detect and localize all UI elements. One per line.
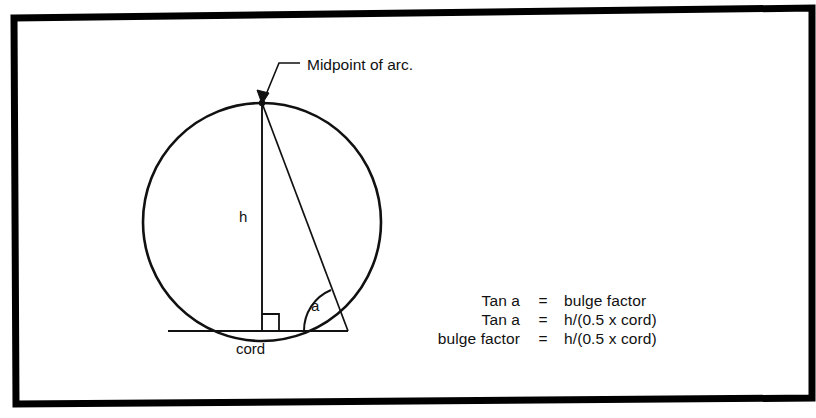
chord-label: cord xyxy=(236,340,265,357)
equation-rhs: h/(0.5 x cord) xyxy=(554,329,704,348)
equation-block: Tan a = bulge factor Tan a = h/(0.5 x co… xyxy=(404,291,704,348)
hypotenuse-line xyxy=(262,103,348,331)
equation-rhs: bulge factor xyxy=(554,291,704,310)
equation-operator: = xyxy=(532,310,554,329)
equation-operator: = xyxy=(532,329,554,348)
equation-row: bulge factor = h/(0.5 x cord) xyxy=(404,329,704,348)
equation-lhs: Tan a xyxy=(404,310,532,329)
angle-label: a xyxy=(311,297,319,314)
equation-lhs: Tan a xyxy=(404,291,532,310)
right-angle-marker xyxy=(262,314,279,331)
equation-rhs: h/(0.5 x cord) xyxy=(554,310,704,329)
equation-row: Tan a = bulge factor xyxy=(404,291,704,310)
midpoint-of-arc-label: Midpoint of arc. xyxy=(307,56,413,74)
height-label: h xyxy=(239,208,247,225)
equation-row: Tan a = h/(0.5 x cord) xyxy=(404,310,704,329)
equation-operator: = xyxy=(532,291,554,310)
equation-lhs: bulge factor xyxy=(404,329,532,348)
figure-page: Midpoint of arc. h cord a Tan a = bulge … xyxy=(0,0,816,418)
arc-midpoint-dot xyxy=(259,100,265,106)
leader-line xyxy=(265,63,300,97)
